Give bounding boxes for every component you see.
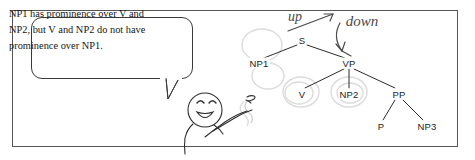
tree-node-pp: PP — [392, 89, 407, 100]
annotation-down: down — [346, 13, 379, 30]
tree-node-np2: NP2 — [339, 89, 360, 100]
figure-canvas: NP1 has prominence over V and NP2, but V… — [0, 0, 475, 160]
tree-node-s: S — [298, 35, 306, 46]
annotation-up: up — [288, 9, 302, 25]
tree-node-vp: VP — [342, 58, 357, 69]
tree-node-np1: NP1 — [249, 58, 270, 69]
tree-node-p: P — [377, 121, 385, 132]
tree-node-v: V — [298, 89, 306, 100]
bubble-line-3: prominence over NP1. — [9, 38, 155, 54]
speech-bubble-text: NP1 has prominence over V and NP2, but V… — [9, 6, 155, 54]
bubble-line-2: NP2, but V and NP2 do not have — [9, 22, 155, 38]
tree-node-np3: NP3 — [417, 121, 438, 132]
bubble-line-1: NP1 has prominence over V and — [9, 6, 155, 22]
